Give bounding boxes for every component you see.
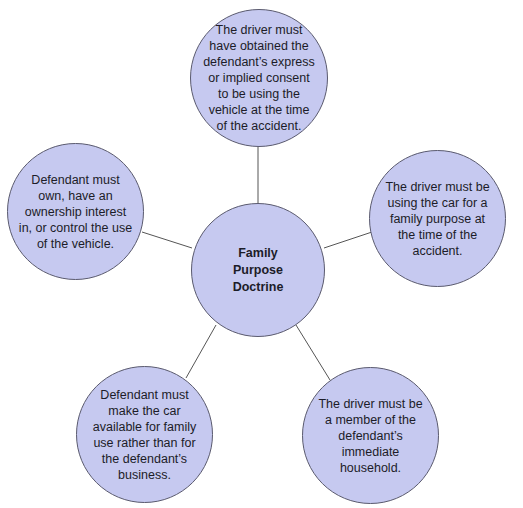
center-node-family-purpose-doctrine: Family Purpose Doctrine (191, 203, 325, 337)
node-bottom-right-household: The driver must be a member of the defen… (302, 367, 439, 504)
connector-right (324, 232, 372, 248)
node-top-text: The driver must have obtained the defend… (203, 22, 315, 134)
node-bottom-right-text: The driver must be a member of the defen… (313, 396, 428, 476)
center-node-label: Family Purpose Doctrine (233, 245, 284, 296)
node-top-consent: The driver must have obtained the defend… (190, 9, 328, 147)
node-right-family-purpose: The driver must be using the car for a f… (369, 150, 506, 287)
node-bottom-left-availability: Defendant must make the car available fo… (76, 366, 213, 503)
node-left-text: Defendant must own, have an ownership in… (19, 172, 132, 252)
connector-bottom-left (186, 325, 216, 378)
node-left-ownership: Defendant must own, have an ownership in… (7, 143, 144, 280)
connector-bottom-right (296, 325, 330, 380)
connector-left (142, 232, 192, 248)
node-bottom-left-text: Defendant must make the car available fo… (93, 387, 197, 483)
node-right-text: The driver must be using the car for a f… (385, 179, 489, 259)
